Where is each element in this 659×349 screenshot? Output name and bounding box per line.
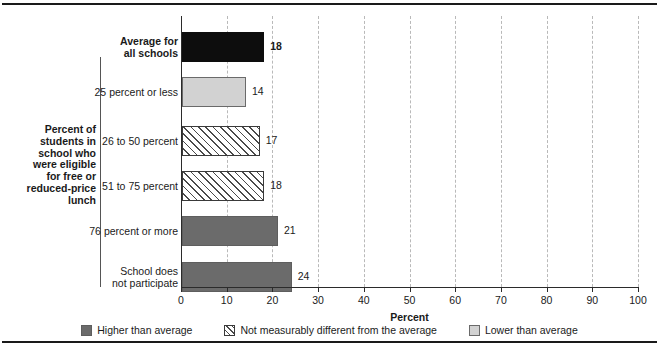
gridline [638,16,639,287]
bar-value-label: 14 [252,85,264,97]
legend: Higher than averageNot measurably differ… [0,322,659,338]
x-axis-tick-label: 90 [586,294,598,306]
gridline [501,16,502,287]
x-axis-tick-label: 0 [178,294,184,306]
category-label: School does not participate [28,265,178,290]
legend-item: Higher than average [81,324,192,336]
bar-2 [182,77,246,107]
x-axis-tick-label: 30 [312,294,324,306]
legend-label: Lower than average [485,324,578,336]
category-label-column: Average for all schools25 percent or les… [22,0,178,300]
bar-value-label: 18 [270,179,282,191]
category-label: 26 to 50 percent [28,135,178,148]
bar-value-label: 24 [298,270,310,282]
x-axis-tick [638,287,639,292]
bar-1 [182,32,264,62]
category-label: 51 to 75 percent [28,180,178,193]
x-axis-tick [410,287,411,292]
legend-label: Not measurably different from the averag… [240,324,437,336]
legend-swatch-icon [469,325,480,336]
gridline [455,16,456,287]
gridline [364,16,365,287]
legend-item: Not measurably different from the averag… [224,324,437,336]
bar-3 [182,126,260,156]
legend-label: Higher than average [97,324,192,336]
legend-swatch-icon [224,325,235,336]
chart-figure: Percent of students in school who were e… [0,0,659,349]
plot-area: 181417182124 0102030405060708090100 Perc… [181,16,638,287]
bar-value-label: 18 [270,40,282,52]
x-axis-tick-label: 50 [404,294,416,306]
x-axis-tick [318,287,319,292]
x-axis-tick-label: 60 [449,294,461,306]
y-axis-line [181,16,182,287]
category-label: 25 percent or less [28,86,178,99]
x-axis-tick [227,287,228,292]
bar-5 [182,216,278,246]
gridline [547,16,548,287]
x-axis-tick [364,287,365,292]
bottom-divider-rule [2,341,657,343]
x-axis-tick-label: 100 [629,294,647,306]
bar-value-label: 21 [284,224,296,236]
category-label: Average for all schools [28,35,178,60]
gridline [272,16,273,287]
gridline [318,16,319,287]
x-axis-tick [592,287,593,292]
x-axis-tick-label: 40 [358,294,370,306]
bar-value-label: 17 [266,134,278,146]
gridline [592,16,593,287]
x-axis-tick [272,287,273,292]
x-axis-tick [455,287,456,292]
x-axis-tick [547,287,548,292]
x-axis-tick-label: 70 [495,294,507,306]
x-axis-tick-label: 80 [541,294,553,306]
x-axis-tick [181,287,182,292]
legend-item: Lower than average [469,324,578,336]
category-label: 76 percent or more [28,225,178,238]
x-axis-tick [501,287,502,292]
legend-swatch-icon [81,325,92,336]
gridline [410,16,411,287]
x-axis-tick-label: 10 [221,294,233,306]
x-axis-tick-label: 20 [267,294,279,306]
bar-4 [182,171,264,201]
